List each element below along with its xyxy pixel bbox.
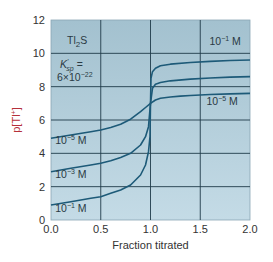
x-tick-label: 0.5: [93, 223, 108, 235]
y-tick-label: 12: [33, 14, 45, 26]
y-tick-label: 2: [39, 181, 45, 193]
y-tick-label: 6: [39, 114, 45, 126]
y-tick-label: 8: [39, 81, 45, 93]
x-axis-ticks: 0.00.51.01.52.0: [43, 223, 257, 235]
y-axis-ticks: 024681012: [33, 14, 45, 226]
y-axis-label: p[Tl+]: [10, 107, 22, 133]
titration-chart: 024681012 0.00.51.01.52.0 10−1 M10−5 M10…: [0, 0, 273, 262]
y-tick-label: 10: [33, 47, 45, 59]
x-axis-label: Fraction titrated: [112, 239, 188, 251]
x-tick-label: 0.0: [43, 223, 58, 235]
y-tick-label: 4: [39, 147, 45, 159]
x-tick-label: 1.0: [143, 223, 158, 235]
x-tick-label: 2.0: [242, 223, 257, 235]
x-tick-label: 1.5: [193, 223, 208, 235]
